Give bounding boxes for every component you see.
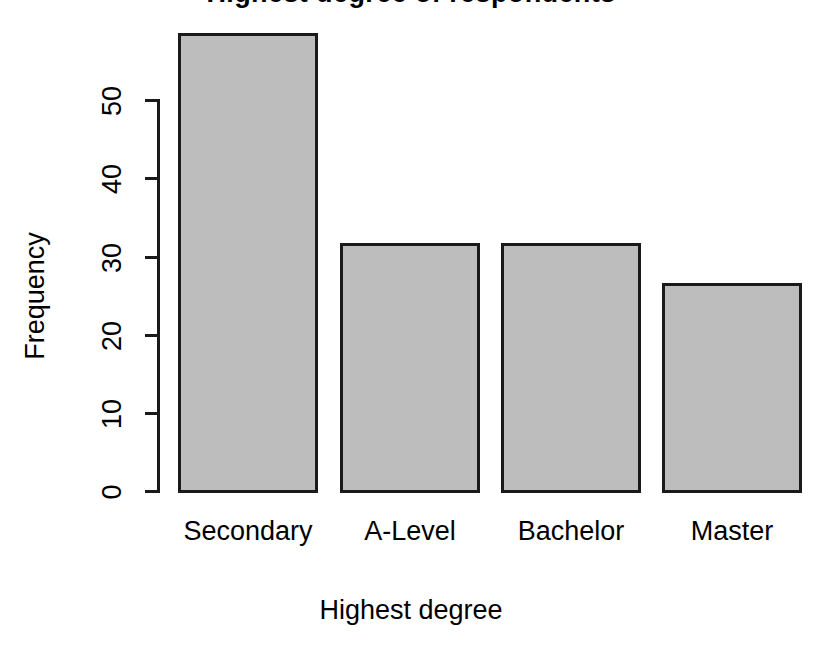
x-axis-label-bachelor: Bachelor [491,518,651,545]
y-axis-tick-label-20: 20 [99,306,129,366]
y-axis-tick-label-30: 30 [99,228,129,288]
y-axis-tick-label-0: 0 [99,462,129,522]
y-axis-line [157,99,160,493]
y-axis-tick-label-40: 40 [99,149,129,209]
bar-bachelor [501,243,641,493]
y-axis-tick-50 [145,99,158,102]
bar-master [662,283,802,493]
y-axis-tick-30 [145,256,158,259]
y-axis-tick-0 [145,490,158,493]
y-axis-tick-label-10: 10 [99,384,129,444]
x-axis-label-secondary: Secondary [168,518,328,545]
y-axis-tick-label-50: 50 [99,71,129,131]
y-axis-tick-10 [145,412,158,415]
x-axis-title: Highest degree [0,595,822,626]
x-axis-label-a-level: A-Level [330,518,490,545]
y-axis-tick-40 [145,177,158,180]
bar-a-level [340,243,480,493]
y-axis-title: Frequency [22,196,54,396]
plot-area: 50 40 30 20 10 0 Frequency Secondary A-L… [0,0,822,659]
bar-secondary [178,33,318,493]
bar-chart-figure: Highest degree of respondents 50 40 30 2… [0,0,822,659]
y-axis-tick-20 [145,334,158,337]
x-axis-label-master: Master [652,518,812,545]
